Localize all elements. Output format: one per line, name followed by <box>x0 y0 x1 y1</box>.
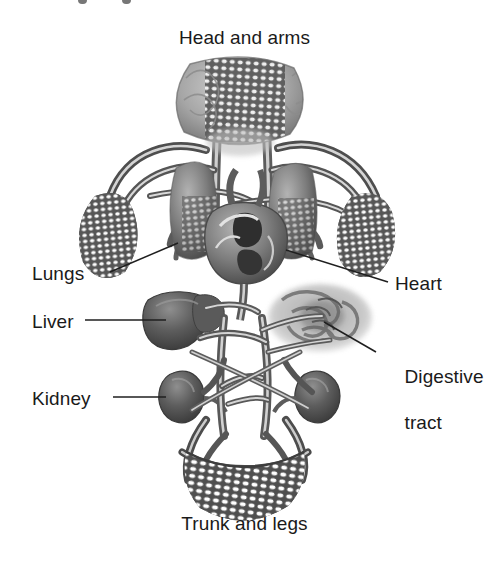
label-digestive-line2: tract <box>405 412 442 433</box>
label-digestive-tract: Digestive tract <box>383 342 484 457</box>
left-arm-capillary-bed <box>78 184 144 280</box>
right-arm-capillary-bed <box>336 184 404 280</box>
label-liver: Liver <box>32 310 74 333</box>
title-trunk-and-legs: Trunk and legs <box>0 512 489 535</box>
title-head-and-arms: Head and arms <box>0 26 489 49</box>
label-heart: Heart <box>395 272 442 295</box>
circulatory-system-figure: Head and arms Lungs Liver Kidney Heart D… <box>0 0 489 569</box>
label-kidney: Kidney <box>32 387 91 410</box>
trunk-legs-capillary-bed <box>178 446 314 522</box>
label-digestive-line1: Digestive <box>405 366 484 387</box>
label-lungs: Lungs <box>32 262 84 285</box>
